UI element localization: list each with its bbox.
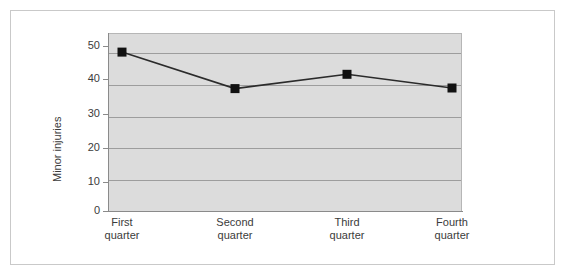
x-tick-label-first-quarter: First quarter	[77, 216, 167, 242]
x-tick-label-line2: quarter	[302, 229, 392, 242]
x-tick-label-second-quarter: Second quarter	[190, 216, 280, 242]
gridline-10	[108, 180, 461, 181]
gridline-20	[108, 148, 461, 149]
x-axis-line	[108, 211, 463, 212]
x-tick-label-line1: Fourth	[407, 216, 497, 229]
y-tick-mark-20	[103, 148, 108, 149]
x-tick-label-fourth-quarter: Fourth quarter	[407, 216, 497, 242]
gridline-30	[108, 117, 461, 118]
gridline-50	[108, 53, 461, 54]
y-tick-label-0: 0	[75, 205, 100, 216]
x-tick-label-line1: Second	[190, 216, 280, 229]
gridline-40	[108, 85, 461, 86]
y-tick-label-50: 50	[75, 40, 100, 51]
y-axis-title: Minor injuries	[52, 52, 66, 182]
plot-area	[108, 33, 462, 211]
x-tick-label-line1: First	[77, 216, 167, 229]
y-tick-label-30: 30	[75, 108, 100, 119]
y-tick-mark-50	[103, 46, 108, 47]
y-tick-mark-40	[103, 79, 108, 80]
y-tick-mark-10	[103, 182, 108, 183]
y-tick-mark-0	[103, 211, 108, 212]
y-tick-label-40: 40	[75, 73, 100, 84]
x-tick-label-line2: quarter	[407, 229, 497, 242]
y-tick-label-10: 10	[75, 176, 100, 187]
y-axis-line	[108, 33, 109, 212]
x-tick-label-line2: quarter	[190, 229, 280, 242]
y-tick-label-20: 20	[75, 142, 100, 153]
chart-figure: 50 40 30 20 10 0 Minor injuries First qu…	[0, 0, 570, 279]
x-tick-label-third-quarter: Third quarter	[302, 216, 392, 242]
y-tick-mark-30	[103, 114, 108, 115]
x-tick-label-line1: Third	[302, 216, 392, 229]
x-tick-label-line2: quarter	[77, 229, 167, 242]
